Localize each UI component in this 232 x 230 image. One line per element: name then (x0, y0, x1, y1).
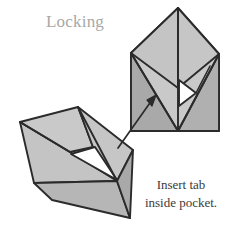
folded-model-left (20, 107, 133, 218)
caption: Insert tab inside pocket. (131, 176, 231, 212)
caption-line-2: inside pocket. (131, 194, 231, 212)
step-title: Locking (46, 12, 104, 32)
folded-model-right (131, 8, 219, 131)
caption-line-1: Insert tab (131, 176, 231, 194)
left-model-bottom-panel (34, 181, 130, 218)
